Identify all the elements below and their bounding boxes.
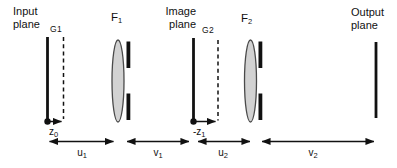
lens-f2-label: F2 [241, 12, 252, 29]
f1-aperture-stop-top [127, 42, 131, 69]
u1-label: u1 [73, 147, 91, 163]
grating-g2-label: G2 [202, 24, 214, 37]
v2-label: v2 [304, 147, 322, 163]
grating-g1-label: G1 [50, 23, 62, 36]
output-plane-label: Outputplane [351, 6, 384, 31]
lens-f1 [112, 40, 124, 122]
v1-label: v1 [149, 147, 167, 163]
optical-system-diagram: Inputplane G1 F1 Imageplane G2 F2 Output… [0, 0, 397, 168]
lens-f2 [245, 40, 257, 122]
u2-label: u2 [214, 147, 232, 163]
f2-aperture-stop-top [259, 42, 263, 69]
lens-f1-label: F1 [111, 11, 122, 28]
neg-z1-label: -z1 [193, 126, 206, 142]
f1-aperture-stop-bottom [127, 94, 131, 121]
image-plane-label: Imageplane [156, 5, 196, 30]
z0-label: z0 [49, 126, 58, 142]
f2-aperture-stop-bottom [259, 94, 263, 121]
input-plane-label: Inputplane [13, 5, 40, 30]
